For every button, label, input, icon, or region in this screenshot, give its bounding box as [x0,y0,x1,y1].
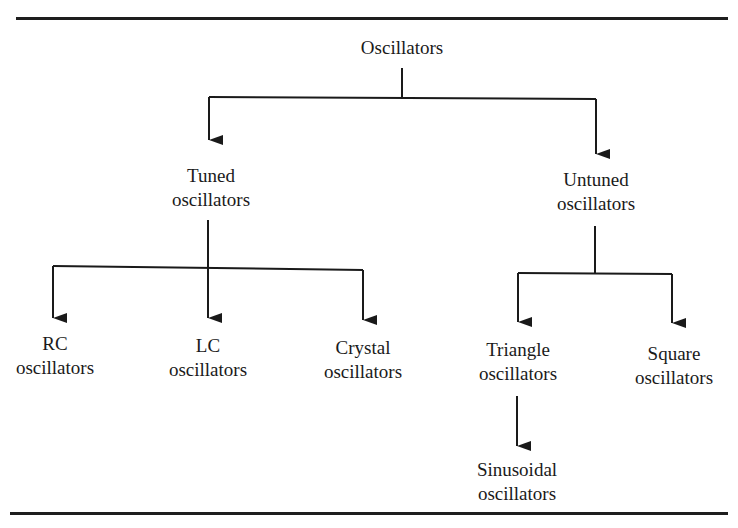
node-label-line2: oscillators [169,358,247,382]
node-label-line1: Sinusoidal [477,458,557,482]
node-triangle-oscillators: Triangle oscillators [479,338,557,386]
connector-lines [0,0,738,528]
node-crystal-oscillators: Crystal oscillators [324,336,402,384]
node-label-line2: oscillators [172,188,250,212]
node-label-line2: oscillators [16,356,94,380]
node-oscillators: Oscillators [361,36,443,60]
node-label-line1: Triangle [479,338,557,362]
node-square-oscillators: Square oscillators [635,342,713,390]
node-label-line1: Tuned [172,164,250,188]
node-sinusoidal-oscillators: Sinusoidal oscillators [477,458,557,506]
node-label-line2: oscillators [557,192,635,216]
node-lc-oscillators: LC oscillators [169,334,247,382]
node-label-line1: RC [16,332,94,356]
node-label-line1: Crystal [324,336,402,360]
node-label: Oscillators [361,36,443,60]
node-label-line2: oscillators [324,360,402,384]
node-tuned-oscillators: Tuned oscillators [172,164,250,212]
node-label-line2: oscillators [635,366,713,390]
node-label-line1: LC [169,334,247,358]
node-label-line2: oscillators [479,362,557,386]
node-label-line2: oscillators [477,482,557,506]
node-label-line1: Untuned [557,168,635,192]
node-untuned-oscillators: Untuned oscillators [557,168,635,216]
node-label-line1: Square [635,342,713,366]
node-rc-oscillators: RC oscillators [16,332,94,380]
